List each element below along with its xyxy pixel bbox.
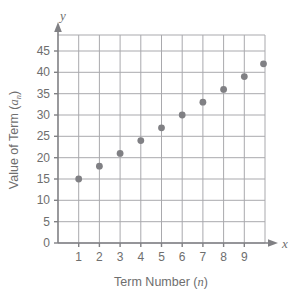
y-axis-letter: y <box>58 8 66 23</box>
y-tick-label-45: 45 <box>37 44 51 58</box>
y-axis-title-prefix: Value of Term ( <box>7 105 21 189</box>
x-tick-label-5: 5 <box>158 250 165 264</box>
y-tick-label-20: 20 <box>37 151 51 165</box>
x-tick-label-1: 1 <box>75 250 82 264</box>
x-axis-title-prefix: Term Number ( <box>114 275 198 289</box>
x-tick-label-7: 7 <box>200 250 207 264</box>
x-axis-arrowhead <box>268 239 278 247</box>
data-point <box>220 86 227 93</box>
x-tick-labels: 1 2 3 4 5 6 7 8 9 <box>75 250 248 264</box>
x-tick-label-2: 2 <box>96 250 103 264</box>
data-point <box>117 150 124 157</box>
y-axis-arrowhead <box>54 22 62 32</box>
scatter-plot-figure: 0 5 10 15 20 25 30 35 40 45 1 2 3 4 5 6 … <box>0 0 291 295</box>
y-tick-label-35: 35 <box>37 87 51 101</box>
y-tick-label-5: 5 <box>43 215 50 229</box>
data-points <box>75 60 267 182</box>
y-tick-label-40: 40 <box>37 65 51 79</box>
y-tick-label-25: 25 <box>37 129 51 143</box>
data-point <box>200 99 207 106</box>
data-point <box>158 124 165 131</box>
data-point <box>75 176 82 183</box>
y-axis-title-suffix: ) <box>7 91 21 95</box>
plot-svg: 0 5 10 15 20 25 30 35 40 45 1 2 3 4 5 6 … <box>0 0 291 295</box>
y-axis-title: Value of Term (an) <box>7 91 23 189</box>
x-axis-title: Term Number (n) <box>114 275 208 289</box>
y-tick-labels: 0 5 10 15 20 25 30 35 40 45 <box>37 44 51 250</box>
data-point <box>137 137 144 144</box>
y-tick-label-0: 0 <box>43 236 50 250</box>
x-axis-letter: x <box>281 236 288 251</box>
y-tick-label-10: 10 <box>37 193 51 207</box>
x-axis-title-suffix: ) <box>204 275 208 289</box>
vertical-gridlines <box>79 35 265 243</box>
x-tick-label-4: 4 <box>137 250 144 264</box>
y-tick-label-15: 15 <box>37 172 51 186</box>
data-point <box>260 60 267 67</box>
data-point <box>179 112 186 119</box>
data-point <box>241 73 248 80</box>
x-tick-label-8: 8 <box>220 250 227 264</box>
y-tick-label-30: 30 <box>37 108 51 122</box>
data-point <box>96 163 103 170</box>
x-tick-label-3: 3 <box>117 250 124 264</box>
x-tick-label-9: 9 <box>241 250 248 264</box>
x-tick-label-6: 6 <box>179 250 186 264</box>
